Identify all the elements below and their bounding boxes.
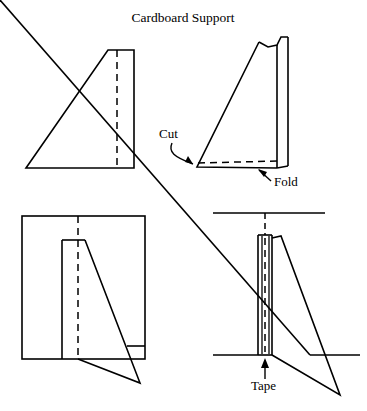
figure-support-front-view — [22, 216, 145, 383]
tape-label: Tape — [251, 378, 276, 393]
blank-outline — [26, 50, 134, 168]
page-title: Cardboard Support — [131, 10, 234, 25]
board-rectangle — [22, 216, 145, 359]
cut-label: Cut — [159, 126, 178, 141]
front-support-triangle — [78, 240, 140, 383]
fold-callout: Fold — [258, 169, 298, 189]
cut-arrow-head — [185, 156, 193, 164]
figure-support-edge-view — [0, 0, 360, 395]
tape-callout: Tape — [251, 358, 276, 393]
edge-support-triangle — [272, 236, 340, 395]
cut-dashed-line — [198, 161, 278, 163]
diagram-canvas: Cardboard Support Cut — [0, 0, 367, 411]
cut-callout: Cut — [159, 126, 193, 164]
tape-arrow-head — [261, 358, 269, 368]
flap-bottom-edge — [277, 166, 288, 168]
flap-top-edge — [259, 37, 288, 47]
figure-folded-support — [197, 37, 288, 168]
fold-label: Fold — [274, 174, 298, 189]
support-triangle-face — [197, 42, 277, 168]
edge-support-shelf-step — [0, 0, 310, 355]
figure-flat-blank — [26, 50, 134, 168]
cardboard-support-diagram: Cardboard Support Cut — [0, 0, 367, 411]
